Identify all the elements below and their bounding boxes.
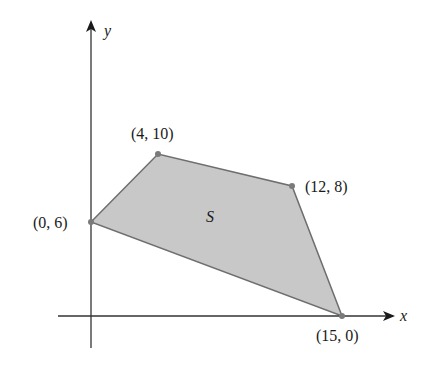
region-diagram: y x S (0, 6) (4, 10) (12, 8) (15, 0)	[0, 0, 424, 368]
vertex-label: (15, 0)	[316, 327, 359, 345]
vertex-12-8	[289, 183, 295, 189]
region-label: S	[206, 208, 214, 225]
vertex-0-6	[88, 219, 94, 225]
vertex-4-10	[155, 151, 161, 157]
vertex-label: (0, 6)	[33, 214, 68, 232]
vertex-label: (4, 10)	[131, 125, 174, 143]
y-axis-label: y	[102, 22, 112, 40]
vertex-label: (12, 8)	[305, 178, 348, 196]
x-axis-label: x	[399, 307, 407, 324]
vertex-15-0	[339, 313, 345, 319]
